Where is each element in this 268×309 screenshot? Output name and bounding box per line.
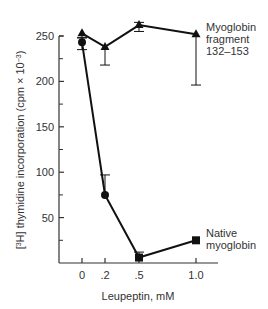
native-series-label: myoglobin: [206, 239, 256, 251]
series-line: [82, 42, 196, 257]
chart: 501001502002500.2.51.0 Myoglobinfragment…: [0, 0, 268, 309]
native-series-label: Native: [206, 227, 237, 239]
circle-marker: [101, 191, 109, 199]
fragment-series-label: Myoglobin: [206, 21, 256, 33]
y-tick-label: 50: [42, 212, 54, 224]
x-tick-label: 1.0: [188, 269, 203, 281]
x-tick-label: 0: [79, 269, 85, 281]
y-tick-label: 200: [36, 75, 54, 87]
fragment-series-label: 132–153: [206, 45, 249, 57]
series-layer: [77, 20, 201, 261]
fragment-series-label: fragment: [206, 33, 249, 45]
y-tick-label: 100: [36, 166, 54, 178]
x-axis-label: Leupeptin, mM: [102, 290, 175, 302]
circle-marker: [78, 38, 86, 46]
x-tick-label: .2: [100, 269, 109, 281]
series-0: [77, 20, 201, 85]
x-tick-label: .5: [134, 269, 143, 281]
series-labels: Myoglobinfragment132–153Nativemyoglobin: [206, 21, 256, 251]
square-marker: [135, 254, 143, 262]
triangle-marker: [78, 28, 87, 36]
series-1: [77, 38, 200, 262]
y-axis-label: [3H] thymidine incorporation (cpm × 10−3…: [14, 51, 26, 250]
y-tick-label: 250: [36, 30, 54, 42]
triangle-marker: [135, 20, 144, 28]
square-marker: [192, 236, 200, 244]
axes: 501001502002500.2.51.0: [36, 30, 218, 281]
y-tick-label: 150: [36, 121, 54, 133]
